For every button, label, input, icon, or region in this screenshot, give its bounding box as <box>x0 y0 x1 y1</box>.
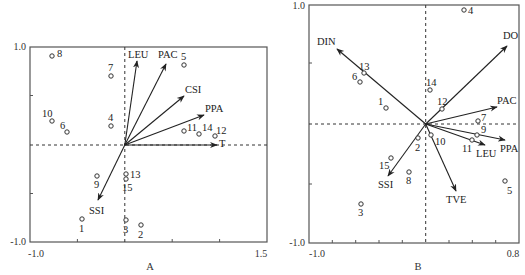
panel-b: 1.0 -1.0 -1.0 0.8 B DIN DO PAC PPA LEU T… <box>289 0 519 272</box>
vector-label-pac: PAC <box>497 95 516 106</box>
x-max-label: 0.8 <box>507 248 520 259</box>
sample-point-1 <box>384 106 388 110</box>
vector-label-din: DIN <box>317 36 336 47</box>
vector-label-leu: LEU <box>476 148 497 159</box>
sample-label-14: 14 <box>426 77 437 88</box>
sample-point-11 <box>182 129 186 133</box>
sample-label-11: 11 <box>187 122 197 133</box>
vector-label-ssi: SSI <box>378 179 394 190</box>
y-min-label: -1.0 <box>289 237 305 248</box>
sample-point-3 <box>359 202 363 206</box>
y-max-label: 1.0 <box>14 41 27 52</box>
sample-point-4 <box>462 8 466 12</box>
sample-label-10: 10 <box>42 108 53 119</box>
sample-point-12 <box>440 107 444 111</box>
x-max-label: 1.5 <box>255 248 268 259</box>
sample-point-1 <box>80 217 84 221</box>
vector-arrow-do <box>426 46 507 124</box>
environmental-vectors <box>98 61 217 200</box>
sample-label-12: 12 <box>216 125 227 136</box>
sample-label-1: 1 <box>79 223 84 234</box>
sample-label-6: 6 <box>60 120 65 131</box>
vector-label-ppa: PPA <box>205 103 224 114</box>
sample-label-13: 13 <box>130 169 141 180</box>
sample-label-12: 12 <box>437 96 448 107</box>
sample-label-11: 11 <box>462 143 472 154</box>
vector-label-do: DO <box>503 30 519 41</box>
sample-point-11 <box>470 138 474 142</box>
sample-point-3 <box>124 218 128 222</box>
sample-label-9: 9 <box>481 124 486 135</box>
sample-label-6: 6 <box>352 71 357 82</box>
vector-arrow-din <box>337 49 426 124</box>
sample-point-13 <box>124 172 128 176</box>
x-min-label: -1.0 <box>28 248 44 259</box>
sample-points <box>358 8 507 206</box>
sample-point-9 <box>475 133 479 137</box>
vector-arrow-ssi <box>98 145 125 200</box>
sample-label-5: 5 <box>507 185 512 196</box>
sample-label-2: 2 <box>138 229 143 240</box>
sample-label-8: 8 <box>57 48 62 59</box>
sample-point-2 <box>139 223 143 227</box>
vector-label-tve: TVE <box>446 194 466 205</box>
sample-point-8 <box>50 54 54 58</box>
sample-point-10 <box>429 133 433 137</box>
sample-point-10 <box>50 119 54 123</box>
sample-point-6 <box>358 80 362 84</box>
sample-label-15: 15 <box>379 160 390 171</box>
sample-label-5: 5 <box>181 51 186 62</box>
figure: 1.0 -1.0 -1.0 1.5 A LEU PAC CSI PPA T SS… <box>0 0 525 275</box>
sample-point-9 <box>95 174 99 178</box>
y-max-label: 1.0 <box>293 0 306 11</box>
vector-label-pac: PAC <box>158 49 177 60</box>
sample-point-2 <box>416 136 420 140</box>
panel-caption: B <box>414 261 421 272</box>
vector-label-leu: LEU <box>128 49 149 60</box>
vector-label-ssi: SSI <box>89 205 105 216</box>
panel-caption: A <box>146 261 154 272</box>
sample-label-3: 3 <box>123 224 128 235</box>
sample-point-14 <box>428 88 432 92</box>
sample-label-15: 15 <box>122 182 133 193</box>
y-min-label: -1.0 <box>10 236 26 247</box>
vector-label-csi: CSI <box>185 84 202 95</box>
sample-label-7: 7 <box>108 62 113 73</box>
x-min-label: -1.0 <box>309 248 325 259</box>
sample-label-14: 14 <box>202 122 213 133</box>
sample-point-5 <box>503 179 507 183</box>
vector-arrow-pac <box>426 107 497 124</box>
vector-arrow-csi <box>125 96 184 145</box>
sample-labels: 1 2 3 4 5 6 7 8 9 10 11 12 13 14 15 <box>352 5 512 218</box>
sample-points <box>50 54 217 227</box>
sample-label-4: 4 <box>468 5 474 16</box>
vector-label-t: T <box>219 138 226 149</box>
sample-point-7 <box>109 74 113 78</box>
sample-point-4 <box>109 124 113 128</box>
sample-label-8: 8 <box>406 175 411 186</box>
sample-label-10: 10 <box>435 136 446 147</box>
panel-a: 1.0 -1.0 -1.0 1.5 A LEU PAC CSI PPA T SS… <box>10 41 267 272</box>
sample-point-5 <box>182 63 186 67</box>
sample-point-6 <box>65 130 69 134</box>
sample-label-2: 2 <box>415 142 420 153</box>
sample-point-8 <box>407 170 411 174</box>
sample-label-7: 7 <box>481 112 486 123</box>
sample-label-4: 4 <box>108 112 114 123</box>
sample-label-13: 13 <box>359 61 370 72</box>
sample-label-9: 9 <box>94 179 99 190</box>
vector-label-ppa: PPA <box>500 143 519 154</box>
sample-point-14 <box>197 132 201 136</box>
sample-label-1: 1 <box>378 96 383 107</box>
sample-label-3: 3 <box>358 207 363 218</box>
sample-point-7 <box>476 119 480 123</box>
sample-point-15 <box>124 177 128 181</box>
